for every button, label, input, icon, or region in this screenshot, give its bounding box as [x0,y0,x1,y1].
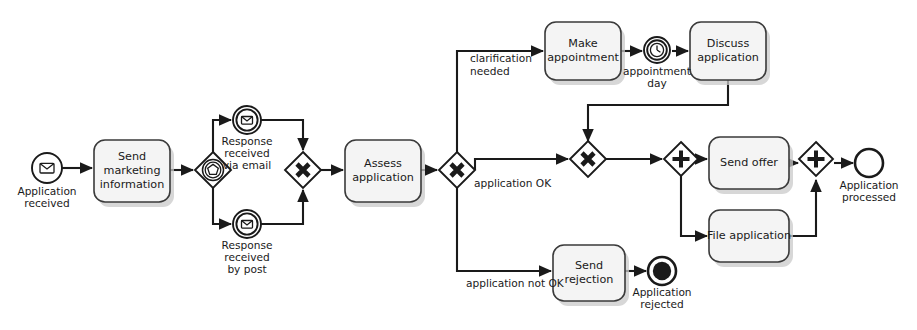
gateway-parallel-join[interactable] [799,142,833,176]
task-label-line: Send [575,259,603,272]
flow-application-ok [475,159,568,170]
event-inner-circle [236,213,257,234]
start-event-application-received[interactable]: Application received [17,153,76,209]
task-label-line: rejection [565,273,614,286]
event-label-line: Application [632,286,691,298]
event-circle [855,149,883,177]
event-label-line: received [224,147,269,159]
event-label-line: by post [227,263,266,275]
event-label-line: Application [839,179,898,191]
intermediate-event-response-email[interactable]: Response received via email [222,106,273,171]
label-application-not-ok: application not OK [466,277,565,289]
task-make-appointment[interactable]: Make appointment [545,22,625,85]
event-circle [32,153,62,183]
task-send-offer[interactable]: Send offer [709,137,793,194]
flow-labels: clarification needed application OK appl… [466,52,565,289]
task-assess-application[interactable]: Assess application [345,140,425,207]
end-event-application-processed[interactable]: Application processed [839,149,898,203]
bpmn-canvas: Send marketing information Assess applic… [0,0,917,330]
task-label-line: Assess [364,157,402,170]
flow-fileapplication-to-paralleljoin [789,180,816,236]
gateway-xor-join-response[interactable] [285,152,321,188]
task-label-line: application [352,171,414,184]
label-application-ok: application OK [474,177,552,189]
task-discuss-application[interactable]: Discuss application [690,22,770,85]
task-label-line: appointment [547,51,619,64]
flow-application-not-ok [457,188,551,271]
task-label-line: Discuss [707,37,750,50]
task-label-line: marketing [103,164,160,177]
label-clarification-needed-line: clarification [470,52,532,64]
label-clarification-needed-line: needed [470,65,510,77]
task-label-line: File application [707,229,791,242]
intermediate-event-response-post[interactable]: Response received by post [222,210,273,275]
event-label-line: received [24,197,69,209]
flow-parallelsplit-to-fileapplication [681,176,707,236]
task-label-line: Send [118,150,146,163]
intermediate-event-appointment-day[interactable]: appointment day [623,37,691,89]
bpmn-diagram: Send marketing information Assess applic… [0,0,917,330]
gateway-xor-join-clarification[interactable] [570,141,606,177]
gateway-parallel-split[interactable] [664,142,698,176]
task-send-rejection[interactable]: Send rejection [553,245,629,306]
task-label-line: information [100,178,165,191]
flow-post-to-xorjoin [261,190,303,224]
event-label-line: appointment [623,65,691,77]
event-label-line: via email [223,159,271,171]
task-label-line: Send offer [720,156,778,169]
task-file-application[interactable]: File application [707,210,793,267]
event-label-line: Response [222,239,273,251]
gateway-xor-split-assessment[interactable] [439,152,475,188]
event-inner-circle [236,109,257,130]
event-label-line: day [647,77,667,89]
flow-eventgateway-to-post [213,188,231,224]
task-label-line: application [697,51,759,64]
event-label-line: received [224,251,269,263]
task-send-marketing-information[interactable]: Send marketing information [94,140,174,207]
terminate-icon [653,262,671,280]
end-event-application-rejected[interactable]: Application rejected [632,257,691,310]
event-label-line: rejected [640,298,683,310]
event-label-line: Application [17,185,76,197]
flow-discuss-to-xorjoin-clarification [588,80,728,141]
event-label-line: Response [222,135,273,147]
task-label-line: Make [568,37,598,50]
event-label-line: processed [842,191,896,203]
